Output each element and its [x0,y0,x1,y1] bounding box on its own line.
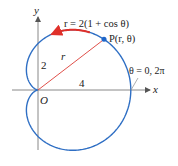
point-p [102,37,107,42]
radius-label: r [61,50,66,62]
origin-label: O [40,94,48,106]
equation-label: r = 2(1 + cos θ) [64,18,129,30]
y-intercept-label: 2 [41,59,47,71]
radius-line [38,39,104,90]
point-label: P(r, θ) [109,33,136,45]
y-axis-label: y [33,4,39,16]
cardioid-diagram: y x r = 2(1 + cos θ) P(r, θ) θ = 0, 2π 2… [0,0,178,166]
angle-leader-line [131,78,138,90]
direction-arrow [52,30,90,34]
angle-label: θ = 0, 2π [129,65,164,76]
x-axis-label: x [152,83,158,95]
x-intercept-label: 4 [79,77,85,89]
